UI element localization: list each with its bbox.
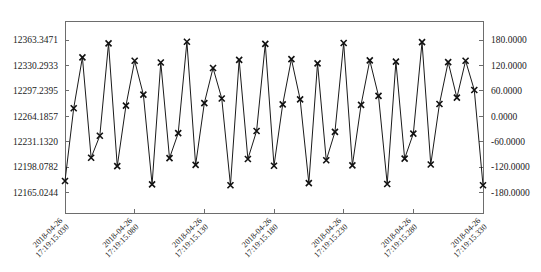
x-axis-labels: 2018-04-2617:19:15.0302018-04-2617:19:15… <box>27 216 488 259</box>
left-axis-tick-label: 12330.2933 <box>13 61 58 71</box>
chart-container: 12363.347112330.293312297.239512264.1857… <box>0 0 541 272</box>
left-axis-tick-label: 12165.0244 <box>13 188 58 198</box>
right-axis-tick-label: -60.0000 <box>491 137 525 147</box>
x-axis-tick-label: 2018-04-2617:19:15.280 <box>376 216 419 259</box>
x-axis-tick-label: 2018-04-2617:19:15.080 <box>97 216 140 259</box>
right-axis-tick-label: 180.0000 <box>491 35 527 45</box>
series-polyline <box>65 42 483 185</box>
x-axis-tick-label: 2018-04-2617:19:15.030 <box>27 216 70 259</box>
right-axis-labels: 180.0000120.000060.00000.0000-60.0000-12… <box>491 35 530 197</box>
right-axis-tick-label: 120.0000 <box>491 61 527 71</box>
left-axis-tick-label: 12363.3471 <box>13 35 58 45</box>
x-axis-tick-label: 2018-04-2617:19:15.130 <box>167 216 210 259</box>
data-point-marker <box>210 65 216 71</box>
chart-axes <box>65 21 483 213</box>
right-axis-tick-label: 0.0000 <box>491 112 517 122</box>
x-axis-tick-label: 2018-04-2617:19:15.180 <box>236 216 279 259</box>
right-axis-tick-label: 60.0000 <box>491 86 522 96</box>
left-axis-labels: 12363.347112330.293312297.239512264.1857… <box>13 35 58 197</box>
x-axis-tick-label: 2018-04-2617:19:15.330 <box>445 216 488 259</box>
left-axis-tick-label: 12264.1857 <box>13 112 58 122</box>
left-axis-tick-label: 12198.0782 <box>13 162 58 172</box>
right-axis-tick-label: -120.0000 <box>491 162 530 172</box>
line-chart: 12363.347112330.293312297.239512264.1857… <box>0 0 541 272</box>
x-axis-tick-label: 2018-04-2617:19:15.230 <box>306 216 349 259</box>
plot-frame <box>65 21 483 213</box>
right-axis-tick-label: -180.0000 <box>491 188 530 198</box>
data-series <box>62 39 486 188</box>
left-axis-tick-label: 12297.2395 <box>13 86 58 96</box>
left-axis-tick-label: 12231.1320 <box>13 137 58 147</box>
